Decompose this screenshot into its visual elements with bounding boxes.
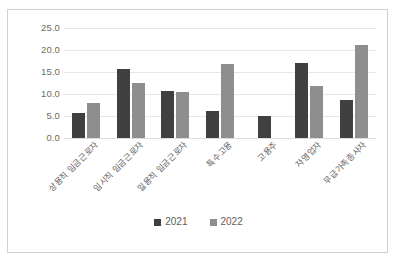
bar-2021[interactable] xyxy=(72,113,85,138)
chart-card: 25.020.015.010.05.00.0 상용직 임금근로자임시직 임금근로… xyxy=(7,9,388,253)
bar-2022[interactable] xyxy=(176,92,189,138)
y-axis-tick-label: 10.0 xyxy=(20,89,60,99)
legend-label: 2022 xyxy=(221,217,243,227)
chart-legend: 20212022 xyxy=(8,217,389,227)
y-axis-tick-label: 20.0 xyxy=(20,45,60,55)
legend-label: 2021 xyxy=(165,217,187,227)
bar-group xyxy=(287,28,332,138)
y-axis-tick-label: 25.0 xyxy=(20,23,60,33)
legend-item-2021[interactable]: 2021 xyxy=(154,217,187,227)
bar-2022[interactable] xyxy=(132,83,145,138)
bar-2022[interactable] xyxy=(310,86,323,138)
bar-2021[interactable] xyxy=(117,69,130,138)
bar-2022[interactable] xyxy=(355,45,368,138)
x-axis: 상용직 임금근로자임시직 임금근로자일용직 임금근로자특수고용고용주자영업자무급… xyxy=(64,138,376,218)
legend-swatch-icon xyxy=(210,219,217,226)
bar-2021[interactable] xyxy=(161,91,174,138)
y-axis-tick-label: 5.0 xyxy=(20,111,60,121)
bar-2022[interactable] xyxy=(221,64,234,138)
bar-series-container xyxy=(64,28,376,138)
bar-2021[interactable] xyxy=(206,111,219,138)
bar-group xyxy=(242,28,287,138)
chart-plot-wrapper: 25.020.015.010.05.00.0 상용직 임금근로자임시직 임금근로… xyxy=(8,10,389,254)
bar-group xyxy=(64,28,109,138)
legend-item-2022[interactable]: 2022 xyxy=(210,217,243,227)
legend-swatch-icon xyxy=(154,219,161,226)
bar-2021[interactable] xyxy=(295,63,308,138)
bar-2022[interactable] xyxy=(87,103,100,138)
bar-group xyxy=(153,28,198,138)
y-axis-tick-label: 0.0 xyxy=(20,133,60,143)
bar-group xyxy=(198,28,243,138)
bar-2021[interactable] xyxy=(258,116,271,138)
bar-2021[interactable] xyxy=(340,100,353,138)
bar-group xyxy=(331,28,376,138)
x-axis-tick-label: 무급가족종사자 xyxy=(220,140,368,263)
bar-group xyxy=(109,28,154,138)
plot-area xyxy=(64,28,376,138)
y-axis-tick-label: 15.0 xyxy=(20,67,60,77)
y-axis: 25.020.015.010.05.00.0 xyxy=(20,28,60,138)
